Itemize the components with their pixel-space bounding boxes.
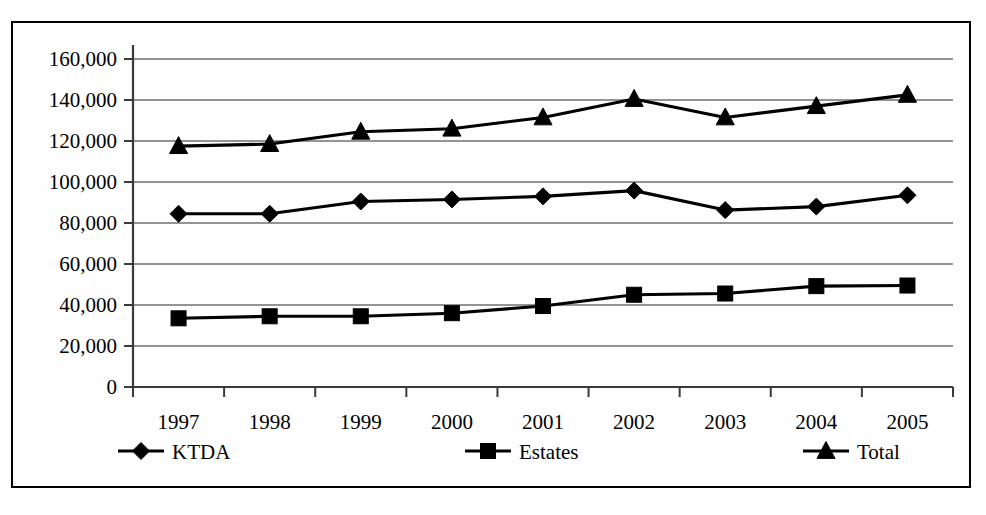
y-axis-tick-labels: 020,00040,00060,00080,000100,000120,0001…	[49, 47, 117, 399]
axes	[133, 45, 953, 387]
x-tick-label: 2004	[795, 410, 838, 434]
plot-area: 020,00040,00060,00080,000100,000120,0001…	[13, 23, 969, 486]
datapoint-total-triangle-marker	[898, 85, 916, 102]
series-estates	[171, 278, 915, 326]
x-axis-tick-labels: 199719981999200020012002200320042005	[158, 410, 929, 434]
x-tick-label: 2001	[522, 410, 564, 434]
legend-label-ktda: KTDA	[172, 440, 231, 464]
x-tick-label: 2000	[431, 410, 473, 434]
chart-frame: 020,00040,00060,00080,000100,000120,0001…	[11, 21, 971, 488]
y-tick-label: 120,000	[49, 129, 117, 153]
legend-label-total: Total	[857, 440, 900, 464]
datapoint-ktda-diamond-marker	[443, 191, 460, 208]
legend-item-total: Total	[803, 440, 900, 464]
y-tick-label: 80,000	[59, 211, 117, 235]
series-ktda	[170, 182, 916, 222]
datapoint-ktda-diamond-marker	[808, 198, 825, 215]
datapoint-ktda-diamond-marker	[717, 202, 734, 219]
legend-item-ktda: KTDA	[118, 440, 231, 464]
datapoint-estates-square-marker	[718, 286, 733, 301]
y-tick-label: 140,000	[49, 88, 117, 112]
datapoint-ktda-diamond-marker	[535, 188, 552, 205]
datapoint-estates-square-marker	[627, 287, 642, 302]
datapoint-ktda-diamond-marker	[170, 205, 187, 222]
x-tick-label: 2002	[613, 410, 655, 434]
y-tick-label: 100,000	[49, 170, 117, 194]
x-tick-label: 1998	[249, 410, 291, 434]
datapoint-estates-square-marker	[444, 306, 459, 321]
datapoint-estates-square-marker	[536, 299, 551, 314]
datapoint-ktda-diamond-marker	[626, 182, 643, 199]
x-tick-label: 1999	[340, 410, 382, 434]
y-tick-label: 0	[107, 375, 118, 399]
datapoint-ktda-diamond-marker	[352, 193, 369, 210]
chart-legend: KTDAEstatesTotal	[118, 440, 900, 464]
legend-estates-square-marker	[481, 444, 496, 459]
y-tick-label: 60,000	[59, 252, 117, 276]
series-total	[170, 85, 917, 153]
legend-ktda-diamond-marker	[133, 443, 150, 460]
y-tick-label: 160,000	[49, 47, 117, 71]
x-tick-label: 2005	[886, 410, 928, 434]
data-series	[170, 85, 917, 325]
x-tick-label: 2003	[704, 410, 746, 434]
line-chart: 020,00040,00060,00080,000100,000120,0001…	[13, 23, 969, 486]
datapoint-estates-square-marker	[262, 309, 277, 324]
y-tick-label: 20,000	[59, 334, 117, 358]
datapoint-estates-square-marker	[171, 311, 186, 326]
datapoint-estates-square-marker	[809, 279, 824, 294]
datapoint-ktda-diamond-marker	[899, 187, 916, 204]
datapoint-estates-square-marker	[353, 309, 368, 324]
legend-item-estates: Estates	[465, 440, 578, 464]
datapoint-total-triangle-marker	[625, 89, 643, 106]
x-tick-label: 1997	[158, 410, 200, 434]
y-tick-label: 40,000	[59, 293, 117, 317]
datapoint-estates-square-marker	[900, 278, 915, 293]
datapoint-ktda-diamond-marker	[261, 205, 278, 222]
legend-label-estates: Estates	[519, 440, 578, 464]
